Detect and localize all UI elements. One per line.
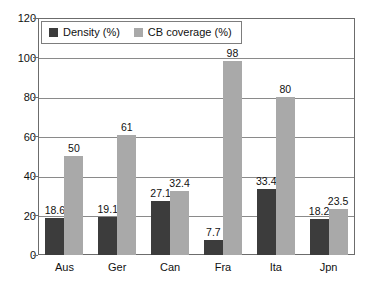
bar-value-label: 23.5 — [321, 196, 356, 207]
bar-group: 18.223.5 — [310, 18, 348, 255]
bar-cb-coverage[interactable] — [117, 135, 136, 255]
legend-item-cb-coverage: CB coverage (%) — [134, 27, 232, 38]
bars-layer: 18.65019.16127.132.47.79833.48018.223.5 — [38, 18, 355, 255]
bar-group: 19.161 — [98, 18, 136, 255]
x-tick-label: Jpn — [302, 261, 355, 273]
x-tick-label: Aus — [38, 261, 91, 273]
bar-value-label: 50 — [56, 143, 91, 154]
bar-density[interactable] — [204, 240, 223, 255]
y-tick-label: 60 — [6, 132, 36, 143]
legend-label-density: Density (%) — [63, 27, 120, 38]
x-tick-label: Fra — [197, 261, 250, 273]
bar-group: 27.132.4 — [151, 18, 189, 255]
chart-legend: Density (%) CB coverage (%) — [41, 21, 242, 44]
y-tick-label: 40 — [6, 171, 36, 182]
legend-swatch-density-icon — [49, 28, 58, 37]
bar-group: 33.480 — [257, 18, 295, 255]
bar-value-label: 61 — [109, 122, 144, 133]
bar-group: 18.650 — [45, 18, 83, 255]
bar-density[interactable] — [98, 217, 117, 255]
bar-density[interactable] — [45, 218, 64, 255]
legend-item-density: Density (%) — [49, 27, 120, 38]
y-tick-label: 80 — [6, 92, 36, 103]
y-tick-label: 120 — [6, 13, 36, 24]
bar-cb-coverage[interactable] — [223, 61, 242, 255]
legend-label-cb-coverage: CB coverage (%) — [148, 27, 232, 38]
bar-chart: 020406080100120 18.65019.16127.132.47.79… — [0, 0, 379, 284]
x-tick-label: Can — [144, 261, 197, 273]
y-tick-label: 20 — [6, 211, 36, 222]
y-axis: 020406080100120 — [0, 18, 36, 255]
bar-cb-coverage[interactable] — [276, 97, 295, 255]
x-tick-label: Ger — [91, 261, 144, 273]
x-tick-label: Ita — [249, 261, 302, 273]
y-tick-label: 100 — [6, 53, 36, 64]
bar-density[interactable] — [310, 219, 329, 255]
y-tick-label: 0 — [6, 250, 36, 261]
bar-cb-coverage[interactable] — [170, 191, 189, 255]
legend-swatch-cb-coverage-icon — [134, 28, 143, 37]
bar-value-label: 80 — [268, 84, 303, 95]
bar-density[interactable] — [151, 201, 170, 255]
bar-cb-coverage[interactable] — [64, 156, 83, 255]
bar-value-label: 32.4 — [162, 178, 197, 189]
bar-value-label: 98 — [215, 48, 250, 59]
bar-cb-coverage[interactable] — [329, 209, 348, 255]
bar-group: 7.798 — [204, 18, 242, 255]
bar-density[interactable] — [257, 189, 276, 255]
